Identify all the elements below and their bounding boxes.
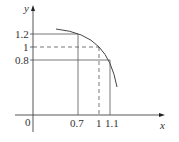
chart: y x 0 1.2 1 0.8 0.7 1 1.1 [0, 0, 179, 142]
y-axis-arrow-icon [31, 5, 35, 11]
y-tick-label: 0.8 [15, 55, 29, 66]
x-tick-label: 0.7 [70, 118, 84, 129]
x-axis-label: x [160, 120, 165, 131]
x-tick-label: 1 [96, 118, 102, 129]
x-axis-arrow-icon [159, 113, 165, 117]
y-tick-label: 1 [23, 42, 29, 53]
x-tick-label: 1.1 [105, 118, 119, 129]
origin-label: 0 [25, 117, 31, 128]
y-axis-label: y [24, 3, 29, 14]
y-tick-label: 1.2 [15, 29, 29, 40]
curve [56, 29, 117, 87]
